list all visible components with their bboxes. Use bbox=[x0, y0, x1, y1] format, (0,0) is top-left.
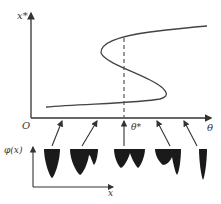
potential-3 bbox=[114, 149, 145, 168]
origin-label: O bbox=[22, 120, 30, 131]
x-label: x bbox=[108, 188, 113, 198]
arrow-4 bbox=[157, 121, 170, 146]
theta-star-label: θ* bbox=[131, 122, 141, 132]
phi-label: φ(x) bbox=[4, 145, 23, 155]
arrow-2 bbox=[82, 121, 97, 146]
potential-4 bbox=[155, 149, 181, 175]
potential-profiles bbox=[44, 149, 207, 180]
s-curve bbox=[46, 26, 207, 107]
potential-1 bbox=[44, 149, 60, 178]
bifurcation-diagram: x* O θ* θ φ(x) x bbox=[0, 0, 221, 204]
arrow-1 bbox=[52, 121, 62, 146]
theta-label: θ bbox=[207, 122, 213, 133]
arrow-5 bbox=[184, 121, 197, 146]
potential-2 bbox=[70, 149, 98, 175]
x-star-label: x* bbox=[17, 10, 28, 21]
potential-5 bbox=[199, 149, 207, 180]
